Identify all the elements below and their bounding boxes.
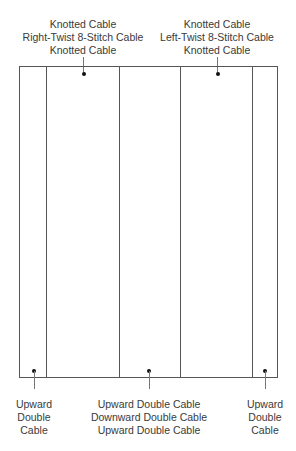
top-left-label-line-3: Knotted Cable [23, 44, 144, 57]
bottom-left-leader-line [34, 371, 35, 389]
top-left-label-line-1: Knotted Cable [23, 18, 144, 31]
top-right-label-line-1: Knotted Cable [160, 18, 274, 31]
bottom-left-label-line-2: Double [16, 411, 52, 424]
top-right-label-line-3: Knotted Cable [160, 44, 274, 57]
top-left-label-line-2: Right-Twist 8-Stitch Cable [23, 31, 144, 44]
bottom-center-label-line-3: Upward Double Cable [91, 424, 207, 437]
top-right-label: Knotted Cable Left-Twist 8-Stitch Cable … [160, 18, 274, 57]
bottom-center-leader-line [149, 371, 150, 389]
bottom-left-label-line-1: Upward [16, 398, 52, 411]
bottom-center-label-line-1: Upward Double Cable [91, 398, 207, 411]
bottom-right-leader-line [265, 371, 266, 389]
panel-divider-4 [252, 66, 253, 378]
bottom-right-label: Upward Double Cable [247, 398, 283, 437]
top-left-label: Knotted Cable Right-Twist 8-Stitch Cable… [23, 18, 144, 57]
panel-divider-1 [46, 66, 47, 378]
bottom-center-label: Upward Double Cable Downward Double Cabl… [91, 398, 207, 437]
bottom-right-label-line-3: Cable [247, 424, 283, 437]
panel-frame [19, 66, 278, 378]
panel-divider-2 [119, 66, 120, 378]
bottom-left-label: Upward Double Cable [16, 398, 52, 437]
bottom-left-label-line-3: Cable [16, 424, 52, 437]
bottom-center-label-line-2: Downward Double Cable [91, 411, 207, 424]
panel-divider-3 [180, 66, 181, 378]
top-right-label-line-2: Left-Twist 8-Stitch Cable [160, 31, 274, 44]
bottom-right-label-line-2: Double [247, 411, 283, 424]
bottom-right-label-line-1: Upward [247, 398, 283, 411]
